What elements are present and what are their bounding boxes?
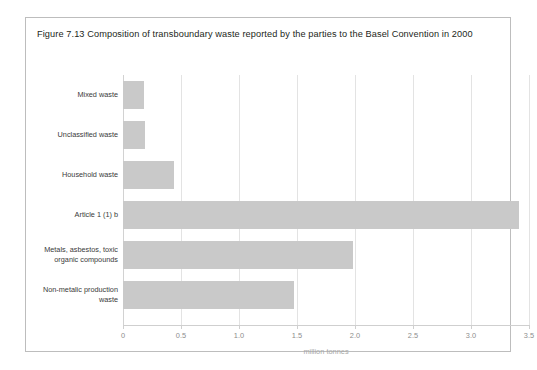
x-tick-label: 2.0 bbox=[350, 331, 360, 340]
figure-title: Figure 7.13 Composition of transboundary… bbox=[37, 29, 473, 39]
bar bbox=[123, 161, 174, 189]
tick-mark bbox=[123, 325, 124, 329]
bar-row: Article 1 (1) b bbox=[123, 195, 529, 235]
bar-row: Household waste bbox=[123, 155, 529, 195]
x-tick-label: 0 bbox=[121, 331, 125, 340]
bar bbox=[123, 241, 353, 269]
x-tick-label: 1.0 bbox=[234, 331, 244, 340]
tick-mark bbox=[181, 325, 182, 329]
bar-row: Unclassified waste bbox=[123, 115, 529, 155]
x-tick-label: 2.5 bbox=[408, 331, 418, 340]
tick-mark bbox=[529, 325, 530, 329]
plot-area: Mixed wasteUnclassified wasteHousehold w… bbox=[123, 75, 529, 325]
bar bbox=[123, 121, 145, 149]
category-label: Metals, asbestos, toxic organic compound… bbox=[30, 241, 118, 269]
category-label: Non-metalic production waste bbox=[30, 281, 118, 309]
x-tick-label: 0.5 bbox=[176, 331, 186, 340]
tick-mark bbox=[355, 325, 356, 329]
x-tick-label: 1.5 bbox=[292, 331, 302, 340]
bar bbox=[123, 201, 519, 229]
category-label: Mixed waste bbox=[30, 81, 118, 109]
tick-mark bbox=[297, 325, 298, 329]
tick-mark bbox=[471, 325, 472, 329]
x-axis-line bbox=[123, 325, 529, 326]
x-axis-label: million tonnes bbox=[303, 347, 348, 356]
gridline bbox=[529, 75, 530, 325]
tick-mark bbox=[239, 325, 240, 329]
bar bbox=[123, 81, 144, 109]
category-label: Article 1 (1) b bbox=[30, 201, 118, 229]
x-tick-label: 3.5 bbox=[524, 331, 534, 340]
bar bbox=[123, 281, 294, 309]
figure-panel: Figure 7.13 Composition of transboundary… bbox=[25, 17, 511, 352]
category-label: Unclassified waste bbox=[30, 121, 118, 149]
tick-mark bbox=[413, 325, 414, 329]
category-label: Household waste bbox=[30, 161, 118, 189]
bar-row: Mixed waste bbox=[123, 75, 529, 115]
bar-row: Non-metalic production waste bbox=[123, 275, 529, 315]
bar-row: Metals, asbestos, toxic organic compound… bbox=[123, 235, 529, 275]
x-tick-label: 3.0 bbox=[466, 331, 476, 340]
